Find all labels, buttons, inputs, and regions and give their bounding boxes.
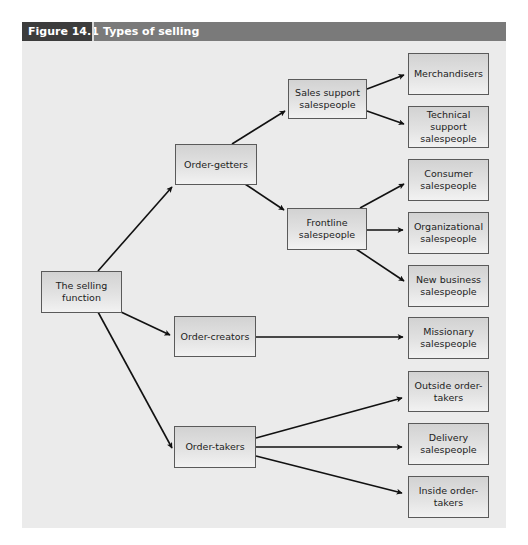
node-label: Consumer salespeople xyxy=(411,168,486,192)
node-merchandisers: Merchandisers xyxy=(408,53,489,95)
arrow-root-to-order-takers xyxy=(98,312,172,448)
node-inside-order-takers: Inside order-takers xyxy=(408,476,489,518)
node-label: Sales support salespeople xyxy=(291,87,364,111)
node-frontline-salespeople: Frontline salespeople xyxy=(287,208,367,250)
node-label: Merchandisers xyxy=(414,68,483,80)
node-label: The selling function xyxy=(44,280,119,304)
arrow-sales-support-to-merchandisers xyxy=(367,75,404,89)
node-outside-order-takers: Outside order-takers xyxy=(408,371,489,412)
node-label: Outside order-takers xyxy=(411,380,486,404)
arrow-order-getters-to-frontline xyxy=(245,184,284,210)
node-consumer-salespeople: Consumer salespeople xyxy=(408,159,489,201)
arrow-sales-support-to-technical-support xyxy=(367,111,404,124)
arrow-order-getters-to-sales-support xyxy=(232,111,285,144)
node-label: Frontline salespeople xyxy=(290,217,364,241)
node-label: Order-getters xyxy=(184,159,248,171)
arrow-root-to-order-getters xyxy=(98,187,172,271)
node-label: New business salespeople xyxy=(411,274,486,298)
arrow-order-takers-to-outside xyxy=(256,398,402,438)
node-organizational-salespeople: Organizational salespeople xyxy=(408,212,489,254)
node-delivery-salespeople: Delivery salespeople xyxy=(408,423,489,465)
node-new-business-salespeople: New business salespeople xyxy=(408,265,489,307)
node-label: Organizational salespeople xyxy=(411,221,486,245)
node-label: Delivery salespeople xyxy=(411,432,486,456)
node-selling-function: The selling function xyxy=(41,271,122,313)
arrow-frontline-to-consumer xyxy=(360,184,404,208)
node-order-getters: Order-getters xyxy=(175,144,257,185)
node-order-takers: Order-takers xyxy=(174,426,256,468)
node-label: Technical support salespeople xyxy=(411,109,486,145)
node-sales-support-salespeople: Sales support salespeople xyxy=(288,79,367,119)
node-label: Missionary salespeople xyxy=(411,326,486,350)
node-missionary-salespeople: Missionary salespeople xyxy=(408,317,489,359)
arrow-order-takers-to-inside xyxy=(256,456,402,493)
arrow-root-to-order-creators xyxy=(121,312,170,335)
node-label: Order-creators xyxy=(181,331,250,343)
node-order-creators: Order-creators xyxy=(174,316,256,357)
arrow-frontline-to-new-business xyxy=(356,249,404,281)
node-technical-support-salespeople: Technical support salespeople xyxy=(408,106,489,148)
node-label: Inside order-takers xyxy=(411,485,486,509)
node-label: Order-takers xyxy=(185,441,244,453)
